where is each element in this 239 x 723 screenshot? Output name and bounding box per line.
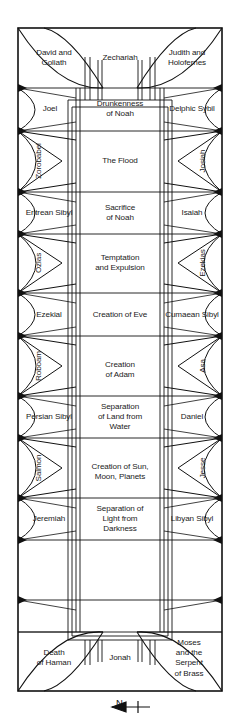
cell-label-zorobabel: Zorobabel	[34, 143, 43, 179]
outer-frame	[18, 28, 222, 691]
compass-north-label: N	[116, 697, 123, 708]
compass-rose: N	[0, 697, 239, 708]
sistine-ceiling-plan: David and Goliath Zechariah Judith and H…	[0, 0, 239, 723]
cell-label-ezekias: Ezekias	[198, 249, 207, 277]
cell-label-josiah: Josiah	[198, 150, 207, 173]
cell-label-jesse: Jesse	[198, 458, 207, 479]
cell-label-ozias: Ozias	[34, 253, 43, 273]
cell-label-roboam: Roboam	[34, 351, 43, 381]
cell-label-asa: Asa	[198, 359, 207, 373]
cell-label-salmon: Salmon	[34, 455, 43, 482]
